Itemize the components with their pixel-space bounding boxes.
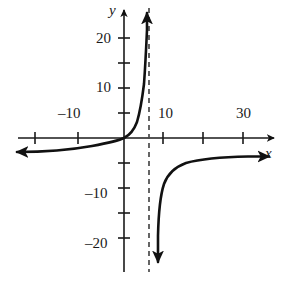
x-tick-label-10: 10 (158, 106, 173, 121)
x-tick-label-30: 30 (236, 106, 251, 121)
y-axis (118, 10, 130, 272)
y-tick-label-20: 20 (96, 31, 111, 46)
x-axis-label: x (265, 146, 272, 161)
y-tick-label-neg20: –20 (85, 236, 108, 251)
x-axis (18, 132, 274, 144)
y-tick-label-10: 10 (96, 80, 111, 95)
x-tick-label-neg10: –10 (58, 106, 81, 121)
plot-canvas (0, 0, 282, 284)
y-tick-label-neg10: –10 (85, 186, 108, 201)
curve-left-branch (17, 13, 147, 152)
curve-right-branch (158, 157, 269, 263)
function-graph-figure: –10 10 30 20 10 –10 –20 x y (0, 0, 282, 284)
y-axis-label: y (109, 3, 116, 18)
